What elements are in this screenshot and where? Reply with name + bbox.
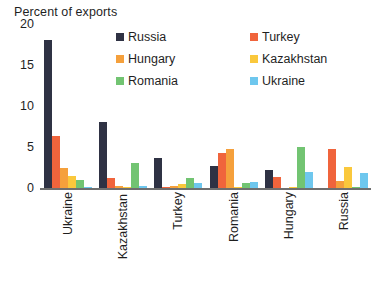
bar <box>210 166 218 188</box>
legend-swatch-hungary-icon <box>116 55 124 63</box>
bar <box>265 170 273 188</box>
legend-label-kazakhstan: Kazakhstan <box>262 53 327 66</box>
y-axis-tick-label: 10 <box>8 100 34 112</box>
bar <box>297 147 305 188</box>
bar <box>52 136 60 188</box>
bar-group <box>44 24 92 188</box>
bar <box>60 168 68 189</box>
bar <box>218 153 226 188</box>
legend-label-russia: Russia <box>128 31 166 44</box>
bar <box>344 167 352 188</box>
legend-swatch-russia-icon <box>116 33 124 41</box>
legend-swatch-romania-icon <box>116 77 124 85</box>
bar <box>186 178 194 188</box>
bar-chart: Percent of exports 05101520 Russia Hunga… <box>0 0 371 283</box>
bar <box>107 178 115 188</box>
x-axis-category-label: Turkey <box>171 192 185 282</box>
y-axis-tick-label: 15 <box>8 59 34 71</box>
bar <box>305 172 313 188</box>
legend-label-romania: Romania <box>128 75 178 88</box>
legend-swatch-ukraine-icon <box>250 77 258 85</box>
x-axis-category-label: Hungary <box>282 192 296 282</box>
x-axis-category-label: Romania <box>227 192 241 282</box>
x-axis-category-label: Ukraine <box>61 192 75 282</box>
legend-item-turkey: Turkey <box>250 26 370 48</box>
bar <box>328 149 336 188</box>
legend-item-russia: Russia <box>116 26 236 48</box>
x-axis-category-label: Russia <box>337 192 351 282</box>
bar <box>273 177 281 188</box>
legend-label-hungary: Hungary <box>128 53 175 66</box>
legend-swatch-kazakhstan-icon <box>250 55 258 63</box>
legend-label-turkey: Turkey <box>262 31 300 44</box>
y-axis-tick-label: 0 <box>8 182 34 194</box>
y-axis: 05101520 <box>0 0 34 283</box>
bar <box>131 163 139 188</box>
x-axis-line <box>40 188 371 190</box>
legend-item-kazakhstan: Kazakhstan <box>250 48 370 70</box>
legend: Russia Hungary Romania Turkey Kazakhstan <box>116 26 368 92</box>
bar <box>76 180 84 188</box>
bar <box>44 40 52 188</box>
legend-swatch-turkey-icon <box>250 33 258 41</box>
y-axis-tick-label: 20 <box>8 18 34 30</box>
bar <box>68 176 76 188</box>
legend-item-ukraine: Ukraine <box>250 70 370 92</box>
legend-item-hungary: Hungary <box>116 48 236 70</box>
legend-label-ukraine: Ukraine <box>262 75 305 88</box>
legend-column-left: Russia Hungary Romania <box>116 26 236 92</box>
bar <box>99 122 107 188</box>
y-axis-tick-label: 5 <box>8 141 34 153</box>
legend-item-romania: Romania <box>116 70 236 92</box>
bar <box>226 149 234 188</box>
bar <box>154 158 162 188</box>
legend-column-right: Turkey Kazakhstan Ukraine <box>250 26 370 92</box>
x-axis-category-label: Kazakhstan <box>116 192 130 282</box>
bar <box>360 173 368 188</box>
